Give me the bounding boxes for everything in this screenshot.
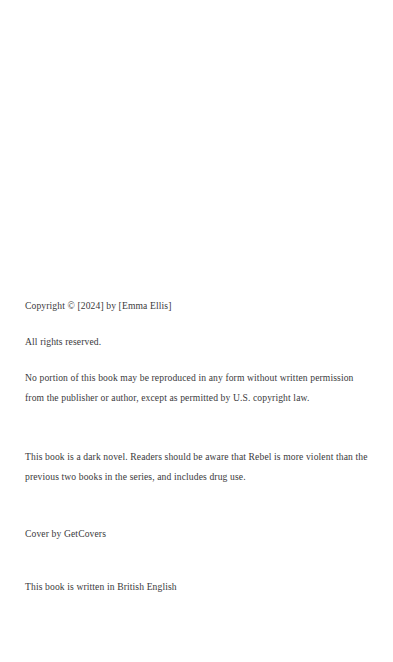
copyright-text-block: Copyright © [2024] by [Emma Ellis] All r… xyxy=(25,296,370,596)
language-note: This book is written in British English xyxy=(25,577,370,597)
copyright-notice: Copyright © [2024] by [Emma Ellis] xyxy=(25,296,370,316)
spacer xyxy=(25,486,370,524)
reproduction-notice: No portion of this book may be reproduce… xyxy=(25,368,370,407)
spacer xyxy=(25,316,370,333)
content-warning: This book is a dark novel. Readers shoul… xyxy=(25,447,370,486)
spacer xyxy=(25,352,370,369)
copyright-page: Copyright © [2024] by [Emma Ellis] All r… xyxy=(0,0,393,662)
spacer xyxy=(25,407,370,447)
rights-reserved-notice: All rights reserved. xyxy=(25,332,370,352)
spacer xyxy=(25,544,370,577)
page-top-blank-area xyxy=(0,0,393,296)
cover-credit: Cover by GetCovers xyxy=(25,524,370,544)
